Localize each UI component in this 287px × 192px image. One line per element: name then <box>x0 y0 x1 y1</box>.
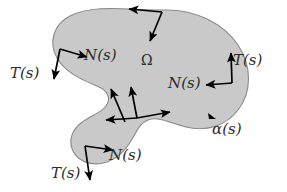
curve-region-diagram: N(s) T(s) T(s) N(s) N(s) T(s) α(s) Ω <box>0 0 287 192</box>
label-N-bottom: N(s) <box>108 146 142 164</box>
label-alpha-curve: α(s) <box>212 120 242 138</box>
label-N-right: N(s) <box>167 74 201 92</box>
label-T-left: T(s) <box>10 64 40 82</box>
label-T-right: T(s) <box>233 51 263 69</box>
tangent-right-vector <box>231 53 232 83</box>
label-N-top-left: N(s) <box>83 46 117 64</box>
label-omega-region: Ω <box>141 52 153 68</box>
omega-region-shape <box>53 8 249 163</box>
label-T-bottom: T(s) <box>51 164 81 182</box>
